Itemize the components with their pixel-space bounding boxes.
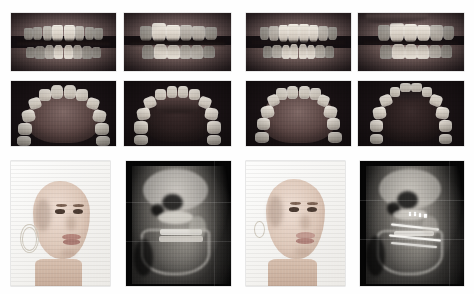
panel-intraoral-lateral-posttreatment (358, 13, 464, 71)
figure-montage (0, 0, 474, 294)
panel-occlusal-mandibular-posttreatment (358, 81, 464, 146)
panel-occlusal-mandibular-pretreatment (124, 81, 231, 146)
panel-intraoral-frontal-posttreatment (246, 13, 351, 71)
panel-facial-profile-posttreatment (246, 161, 345, 286)
panel-intraoral-frontal-pretreatment (11, 13, 116, 71)
panel-cephalogram-posttreatment (360, 161, 464, 286)
panel-occlusal-maxillary-posttreatment (246, 81, 351, 146)
panel-intraoral-lateral-pretreatment (124, 13, 231, 71)
panel-occlusal-maxillary-pretreatment (11, 81, 116, 146)
panel-cephalogram-pretreatment (126, 161, 231, 286)
panel-facial-profile-pretreatment (11, 161, 110, 286)
